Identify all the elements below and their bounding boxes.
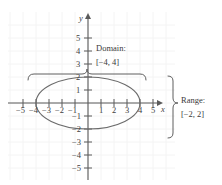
- x-tick-label--3: −3: [42, 106, 51, 115]
- y-tick-label-1: 1: [76, 86, 80, 95]
- range-label: Range:: [181, 96, 205, 105]
- x-tick-label-2: 2: [112, 106, 116, 115]
- y-tick-label--1: −1: [72, 112, 81, 121]
- graph-figure: y x −5 −4 −3 −2 −1 1 2 3 4 5 5 4 3 2 1 −…: [0, 0, 222, 185]
- x-tick-label--2: −2: [55, 106, 64, 115]
- x-axis-label: x: [161, 105, 165, 114]
- x-tick-label-3: 3: [125, 106, 129, 115]
- x-tick-label-5: 5: [151, 106, 155, 115]
- domain-label: Domain:: [96, 44, 126, 53]
- domain-brace: [28, 69, 146, 80]
- range-interval: [−2, 2]: [181, 110, 204, 119]
- y-axis-label: y: [79, 14, 83, 23]
- x-tick-label-4: 4: [138, 106, 142, 115]
- y-tick-label--5: −5: [72, 164, 81, 173]
- y-tick-label-2: 2: [76, 73, 80, 82]
- y-tick-label-5: 5: [76, 34, 80, 43]
- y-tick-label-4: 4: [76, 47, 80, 56]
- x-tick-label-1: 1: [99, 106, 103, 115]
- domain-interval: [−4, 4]: [96, 58, 119, 67]
- coordinate-plane: [0, 0, 222, 185]
- x-tick-label--4: −4: [29, 106, 38, 115]
- y-tick-label--3: −3: [72, 138, 81, 147]
- y-axis-arrow: [85, 13, 91, 19]
- x-tick-label--5: −5: [16, 106, 25, 115]
- y-tick-label--2: −2: [72, 125, 81, 134]
- y-tick-label-3: 3: [76, 60, 80, 69]
- y-tick-label--4: −4: [72, 151, 81, 160]
